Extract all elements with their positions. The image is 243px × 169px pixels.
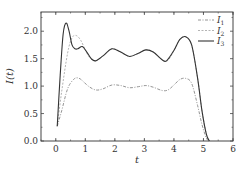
legend-label: I2 (216, 26, 225, 37)
x-tick-label: 3 (142, 144, 148, 154)
series-line-i3 (57, 23, 209, 141)
y-axis-label: I(t) (4, 68, 15, 85)
x-tick-label: 4 (171, 144, 177, 154)
x-tick-label: 1 (82, 144, 88, 154)
y-tick-label: 2.0 (24, 26, 39, 36)
y-tick-label: 1.0 (24, 81, 39, 91)
legend-label: I1 (216, 15, 224, 26)
x-tick-label: 6 (230, 144, 236, 154)
x-tick-label: 2 (112, 144, 118, 154)
y-tick-label: 0.0 (24, 136, 39, 146)
legend: I1I2I3 (198, 15, 225, 47)
y-tick-label: 1.5 (24, 54, 39, 64)
y-tick-label: 0.5 (24, 109, 39, 119)
series-line-i1 (57, 78, 209, 141)
x-tick-label: 5 (201, 144, 207, 154)
series-line-i2 (57, 35, 209, 141)
x-tick-label: 0 (53, 144, 59, 154)
x-axis-label: t (135, 154, 140, 165)
series-layer (57, 23, 209, 141)
line-chart: 01234560.00.51.01.52.0 t I(t) I1I2I3 (0, 0, 243, 169)
legend-label: I3 (216, 36, 225, 47)
